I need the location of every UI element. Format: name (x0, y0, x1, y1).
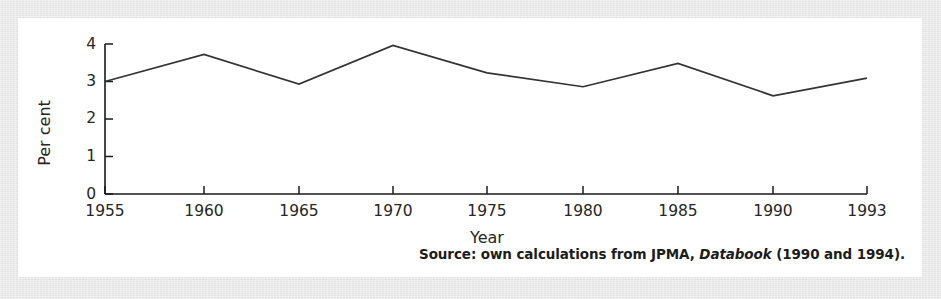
x-tick-label-1985: 1985 (658, 202, 697, 220)
x-tick-label-1970: 1970 (373, 202, 412, 220)
x-tick-label-1993: 1993 (847, 202, 886, 220)
x-tick-label-1965: 1965 (279, 202, 318, 220)
x-tick-label-1960: 1960 (184, 202, 223, 220)
figure-page: Per cent 4 3 2 1 0 (0, 0, 941, 299)
y-axis-title: Per cent (35, 100, 54, 166)
x-tick-label-1975: 1975 (467, 202, 506, 220)
line-chart: Per cent 4 3 2 1 0 (18, 18, 922, 277)
x-axis-title: Year (469, 228, 504, 247)
figure-panel: Per cent 4 3 2 1 0 (18, 18, 922, 277)
x-tick-label-1980: 1980 (563, 202, 602, 220)
source-note-book-title: Databook (699, 246, 771, 262)
y-tick-label-3: 3 (86, 72, 96, 90)
data-series-line (105, 46, 867, 96)
y-tick-label-2: 2 (86, 109, 96, 127)
y-tick-label-0: 0 (86, 185, 96, 203)
y-tick-label-4: 4 (86, 35, 96, 53)
source-note-prefix: Source: own calculations from JPMA, (419, 246, 695, 262)
y-tick-label-1: 1 (86, 147, 96, 165)
x-tick-label-1955: 1955 (85, 202, 124, 220)
x-tick-label-1990: 1990 (753, 202, 792, 220)
source-note-suffix: (1990 and 1994). (776, 246, 905, 262)
source-note: Source: own calculations from JPMA, Data… (18, 246, 905, 262)
